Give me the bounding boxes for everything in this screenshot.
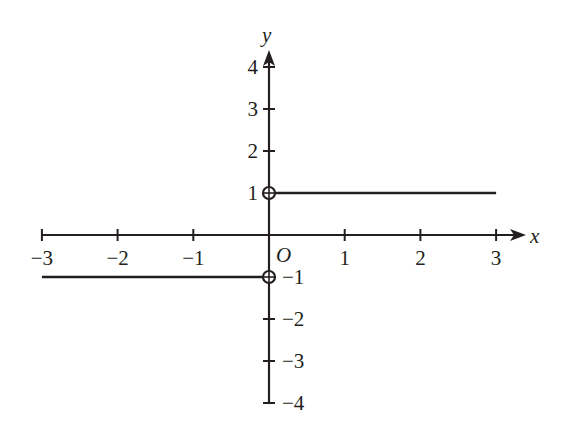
y-tick-label: 3: [248, 97, 259, 121]
y-tick-label: 1: [248, 181, 259, 205]
x-tick-label: 2: [415, 246, 426, 270]
y-tick-label: 4: [248, 55, 259, 79]
y-tick-label: −2: [282, 307, 304, 331]
y-tick-label: −1: [282, 265, 304, 289]
y-tick-label: 2: [248, 139, 259, 163]
x-tick-label: 3: [491, 246, 502, 270]
x-tick-label: −3: [31, 246, 53, 270]
x-tick-label: 1: [339, 246, 350, 270]
origin-label: O: [276, 243, 291, 267]
x-axis-label: x: [529, 224, 540, 248]
y-tick-label: −4: [282, 391, 305, 415]
y-axis-label: y: [260, 23, 272, 47]
step-function-graph: −3−2−11234321−1−2−3−4 x y O: [0, 0, 568, 436]
y-tick-label: −3: [282, 349, 304, 373]
x-tick-label: −2: [106, 246, 128, 270]
x-tick-label: −1: [182, 246, 204, 270]
